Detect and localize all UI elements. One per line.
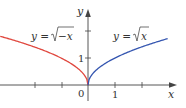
x-axis-arrow-icon <box>169 82 177 88</box>
origin-label: 0 <box>78 88 84 99</box>
svg-text:y =: y = <box>112 30 131 42</box>
x-tick-label-1: 1 <box>112 89 118 100</box>
y-axis-label: y <box>76 5 84 18</box>
y-tick-label-1: 1 <box>78 53 84 64</box>
x-axis-label: x <box>168 88 175 101</box>
svg-text:y =: y = <box>30 30 49 42</box>
curve-sqrt-neg-x <box>0 36 88 85</box>
curve-sqrt-x <box>88 39 168 85</box>
svg-text:x: x <box>141 30 147 42</box>
square-root-graph: y x 0 1 1 y = −x y = x <box>0 0 186 108</box>
svg-text:−x: −x <box>58 30 73 42</box>
y-axis-arrow-icon <box>85 9 91 17</box>
right-curve-label: y = x <box>112 27 149 42</box>
left-curve-label: y = −x <box>30 27 74 42</box>
